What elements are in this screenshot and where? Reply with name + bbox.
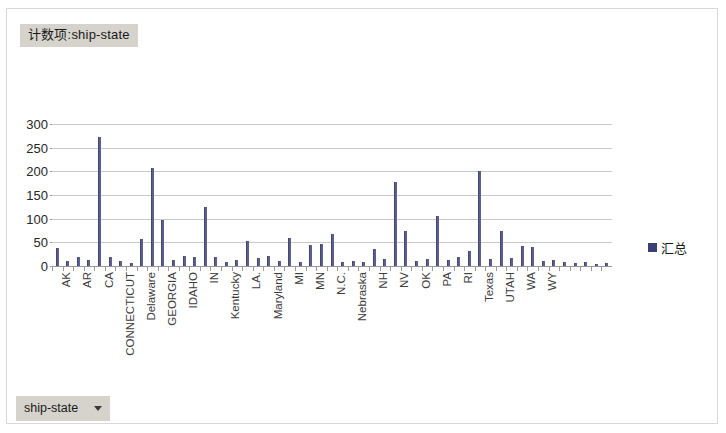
x-axis-tick-mark bbox=[443, 267, 444, 271]
x-axis-labels: AKARCACONNECTICUTDelawareGEORGIAIDAHOINK… bbox=[52, 272, 612, 362]
x-axis-tick-label: Kentucky bbox=[230, 272, 241, 319]
x-axis-tick-mark bbox=[63, 267, 64, 271]
x-axis-tick-label: AK bbox=[61, 272, 72, 287]
bar[interactable] bbox=[320, 244, 323, 266]
x-axis-tick-mark bbox=[84, 267, 85, 271]
bar[interactable] bbox=[521, 246, 524, 266]
bar[interactable] bbox=[161, 220, 164, 266]
x-axis-tick-mark bbox=[221, 267, 222, 271]
bar[interactable] bbox=[404, 231, 407, 266]
y-axis-tick-label: 300 bbox=[8, 118, 48, 131]
bar[interactable] bbox=[56, 248, 59, 266]
plot-area[interactable] bbox=[52, 124, 612, 266]
x-axis-tick-label: OK bbox=[421, 272, 432, 289]
x-axis-tick-label: NV bbox=[399, 272, 410, 288]
x-axis-tick-mark bbox=[527, 267, 528, 271]
x-axis-tick-label: MI bbox=[294, 272, 305, 285]
x-axis-tick-mark bbox=[496, 267, 497, 271]
bar[interactable] bbox=[246, 241, 249, 266]
x-axis-tick-label: NH bbox=[378, 272, 389, 289]
bar[interactable] bbox=[309, 245, 312, 266]
x-axis-tick-mark bbox=[432, 267, 433, 271]
gridline bbox=[52, 124, 612, 125]
x-axis-tick-mark bbox=[115, 267, 116, 271]
x-axis-tick-mark bbox=[147, 267, 148, 271]
x-axis-tick-mark bbox=[591, 267, 592, 271]
x-axis-tick-mark bbox=[137, 267, 138, 271]
bar[interactable] bbox=[457, 257, 460, 266]
bar[interactable] bbox=[109, 257, 112, 266]
bar[interactable] bbox=[510, 258, 513, 266]
x-axis-tick-label: GEORGIA bbox=[167, 272, 178, 326]
bar[interactable] bbox=[183, 256, 186, 266]
y-axis-tick-label: 200 bbox=[8, 165, 48, 178]
bar[interactable] bbox=[500, 231, 503, 267]
x-axis-tick-mark bbox=[52, 267, 53, 271]
x-axis-tick-mark bbox=[253, 267, 254, 271]
x-axis-tick-mark bbox=[454, 267, 455, 271]
y-axis-tick-label: 150 bbox=[8, 189, 48, 202]
x-axis-tick-mark bbox=[200, 267, 201, 271]
bar[interactable] bbox=[373, 249, 376, 266]
x-axis-tick-mark bbox=[232, 267, 233, 271]
filter-field-button[interactable]: ship-state bbox=[16, 396, 110, 421]
x-axis-tick-mark bbox=[369, 267, 370, 271]
bar[interactable] bbox=[140, 239, 143, 266]
bar[interactable] bbox=[426, 259, 429, 266]
x-axis-tick-label: Nebraska bbox=[357, 272, 368, 321]
bar[interactable] bbox=[436, 216, 439, 266]
x-axis-tick-mark bbox=[580, 267, 581, 271]
bar[interactable] bbox=[531, 247, 534, 266]
x-axis-tick-mark bbox=[559, 267, 560, 271]
bar[interactable] bbox=[468, 251, 471, 266]
legend-label: 汇总 bbox=[661, 238, 687, 257]
x-axis-tick-label: IN bbox=[209, 272, 220, 284]
gridline bbox=[52, 148, 612, 149]
bar[interactable] bbox=[214, 257, 217, 266]
y-axis-tick-label: 50 bbox=[8, 236, 48, 249]
bar[interactable] bbox=[77, 257, 80, 266]
x-axis-tick-mark bbox=[327, 267, 328, 271]
bar[interactable] bbox=[267, 256, 270, 266]
bar[interactable] bbox=[288, 238, 291, 266]
bar[interactable] bbox=[193, 257, 196, 266]
bar[interactable] bbox=[394, 182, 397, 266]
x-axis-tick-label: CA bbox=[104, 272, 115, 288]
y-axis-tick-label: 250 bbox=[8, 142, 48, 155]
bar[interactable] bbox=[383, 259, 386, 266]
x-axis-tick-mark bbox=[380, 267, 381, 271]
chevron-down-icon[interactable] bbox=[94, 406, 102, 411]
x-axis-tick-label: WY bbox=[547, 272, 558, 291]
x-axis-tick-mark bbox=[601, 267, 602, 271]
x-axis-tick-mark bbox=[485, 267, 486, 271]
x-axis-tick-mark bbox=[401, 267, 402, 271]
x-axis-tick-mark bbox=[517, 267, 518, 271]
x-axis-tick-label: IDAHO bbox=[188, 272, 199, 308]
x-axis-tick-label: LA. bbox=[251, 272, 262, 289]
x-axis-tick-mark bbox=[306, 267, 307, 271]
chart-plot-wrapper: 050100150200250300 AKARCACONNECTICUTDela… bbox=[0, 0, 726, 433]
bar[interactable] bbox=[151, 168, 154, 266]
bar[interactable] bbox=[98, 137, 101, 266]
x-axis-tick-label: CONNECTICUT bbox=[125, 272, 136, 356]
chart-legend: 汇总 bbox=[648, 238, 687, 257]
x-axis-tick-label: WA bbox=[526, 272, 537, 290]
bar[interactable] bbox=[489, 259, 492, 266]
x-axis-tick-label: Maryland bbox=[273, 272, 284, 319]
bar[interactable] bbox=[331, 234, 334, 266]
x-axis-tick-mark bbox=[390, 267, 391, 271]
bar[interactable] bbox=[478, 171, 481, 266]
gridline bbox=[52, 219, 612, 220]
x-axis-tick-mark bbox=[284, 267, 285, 271]
x-axis-tick-label: Delaware bbox=[146, 272, 157, 321]
x-axis-tick-mark bbox=[263, 267, 264, 271]
bar[interactable] bbox=[257, 258, 260, 266]
x-axis-tick-mark bbox=[316, 267, 317, 271]
x-axis-tick-mark bbox=[337, 267, 338, 271]
bar[interactable] bbox=[204, 207, 207, 266]
x-axis-tick-mark bbox=[411, 267, 412, 271]
x-axis-tick-mark bbox=[158, 267, 159, 271]
x-axis-tick-mark bbox=[274, 267, 275, 271]
x-axis-tick-mark bbox=[242, 267, 243, 271]
x-axis-tick-label: N.C. bbox=[336, 272, 347, 295]
